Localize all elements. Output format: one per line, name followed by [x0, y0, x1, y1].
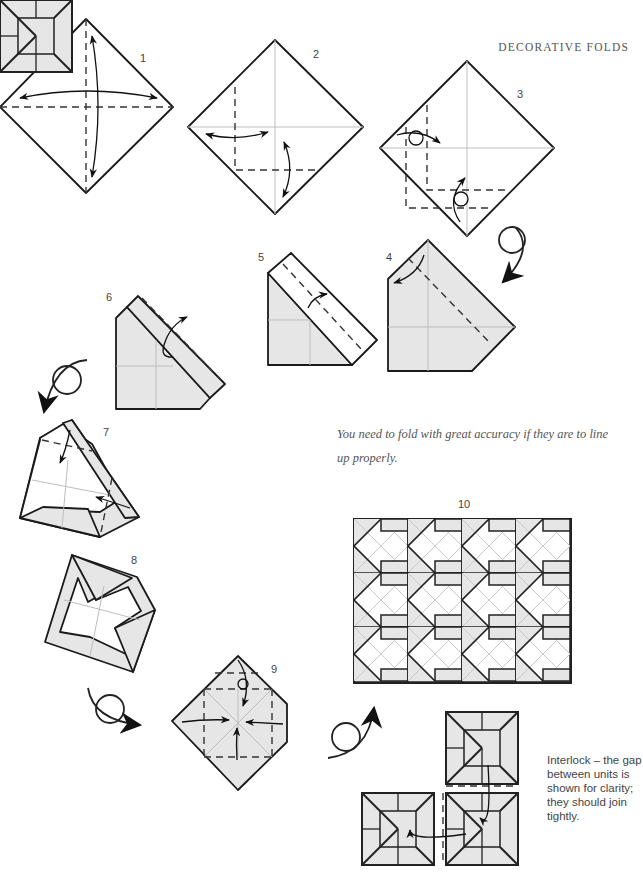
step-9-diagram [172, 656, 287, 790]
step-2-diagram [188, 40, 363, 214]
turn-over-arrow-6 [44, 360, 87, 412]
step-7-diagram [20, 420, 139, 537]
turn-over-arrow-9 [328, 708, 374, 758]
step-4-diagram [388, 240, 515, 371]
step-3-diagram [380, 61, 554, 236]
step-6-diagram [116, 296, 225, 409]
step-8-diagram [45, 555, 155, 672]
fold-diagrams [0, 0, 643, 878]
step-5-diagram [268, 253, 377, 365]
turn-over-arrow-3 [499, 227, 525, 282]
turn-over-arrow-8 [88, 688, 140, 725]
